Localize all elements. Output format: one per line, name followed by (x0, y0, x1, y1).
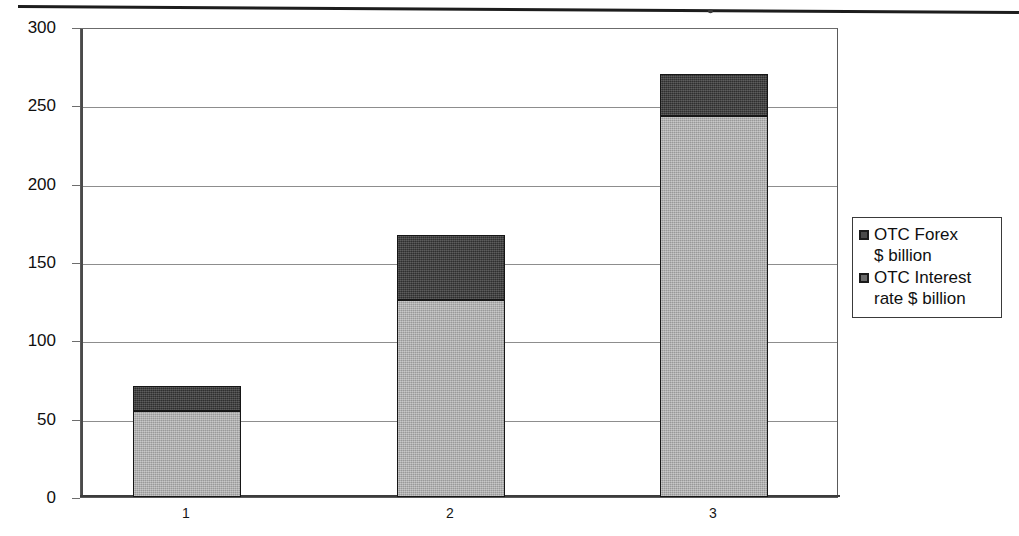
legend-swatch-otc-interest-rate-icon (859, 273, 869, 283)
y-tick-mark-50 (72, 420, 80, 421)
x-axis-labels: 1 2 3 (80, 505, 838, 535)
bar-1-segment-otc-forex[interactable] (133, 386, 241, 411)
bar-3-segment-otc-forex[interactable] (660, 74, 768, 116)
y-tick-mark-100 (72, 341, 80, 342)
x-tick-label-3: 3 (709, 505, 717, 521)
legend-item-otc-forex[interactable]: OTC Forex $ billion (859, 224, 996, 266)
y-tick-mark-300 (72, 28, 80, 29)
page-top-rule (18, 5, 1019, 14)
legend-label-otc-interest-rate: OTC Interest rate $ billion (874, 267, 971, 309)
y-axis-line (81, 29, 83, 497)
y-tick-mark-0 (72, 498, 80, 499)
bar-2-segment-otc-interest-rate[interactable] (397, 300, 505, 497)
bar-group-3[interactable] (660, 74, 768, 497)
y-axis-ticks (0, 28, 80, 498)
plot-area (80, 28, 838, 498)
x-tick-label-2: 2 (446, 505, 454, 521)
stacked-bar-chart-figure: 300 250 200 150 100 50 0 (0, 0, 1019, 536)
bar-group-2[interactable] (397, 235, 505, 497)
y-tick-mark-250 (72, 106, 80, 107)
scan-speck (708, 9, 713, 13)
x-tick-label-1: 1 (182, 505, 190, 521)
legend-label-otc-forex: OTC Forex $ billion (874, 224, 958, 266)
legend-swatch-otc-forex-icon (859, 230, 869, 240)
bar-3-segment-otc-interest-rate[interactable] (660, 116, 768, 497)
legend-item-otc-interest-rate[interactable]: OTC Interest rate $ billion (859, 267, 996, 309)
y-tick-mark-200 (72, 185, 80, 186)
bar-2-segment-otc-forex[interactable] (397, 235, 505, 299)
bar-group-1[interactable] (133, 386, 241, 497)
chart-legend: OTC Forex $ billion OTC Interest rate $ … (852, 217, 1002, 318)
y-tick-mark-150 (72, 263, 80, 264)
bar-1-segment-otc-interest-rate[interactable] (133, 411, 241, 497)
